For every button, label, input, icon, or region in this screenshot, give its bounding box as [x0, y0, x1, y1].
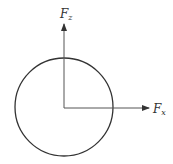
fx-label: Fx [152, 102, 166, 117]
fz-label: Fz [59, 7, 73, 22]
force-diagram: Fz Fx [0, 0, 173, 164]
